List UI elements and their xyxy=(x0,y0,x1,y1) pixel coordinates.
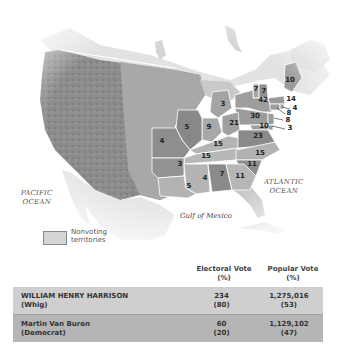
state-vote-label: 30 xyxy=(250,112,260,120)
legend-label-line2: territories xyxy=(71,236,107,244)
electoral-vote: 234 xyxy=(196,292,247,301)
pacific-ocean-label: PACIFIC OCEAN xyxy=(21,189,53,207)
state-vote-label: 4 xyxy=(203,174,208,182)
state-vote-label: 11 xyxy=(247,160,257,168)
electoral-cell: 60 (20) xyxy=(196,320,247,338)
popular-header-line1: Popular Vote xyxy=(263,265,323,274)
map-legend: Nonvoting territories xyxy=(43,228,107,245)
atlantic-label-line2: OCEAN xyxy=(264,187,304,196)
nonvoting-swatch xyxy=(43,231,67,245)
state-vote-label: 8 xyxy=(286,116,291,124)
electoral-header-line1: Electoral Vote xyxy=(194,265,254,274)
state-vote-label: 5 xyxy=(187,182,192,190)
pacific-label-line1: PACIFIC xyxy=(21,189,53,198)
state-vote-label: 11 xyxy=(235,172,245,180)
state-vote-label: 5 xyxy=(185,123,190,131)
popular-cell: 1,275,016 (53) xyxy=(255,292,323,310)
popular-vote: 1,275,016 xyxy=(255,292,323,301)
candidate-party: (Democrat) xyxy=(21,329,196,338)
results-table: WILLIAM HENRY HARRISON (Whig) 234 (80) 1… xyxy=(13,287,323,342)
gulf-of-mexico-label: Gulf of Mexico xyxy=(180,212,232,220)
atlantic-label-line1: ATLANTIC xyxy=(264,178,304,187)
candidate-cell: WILLIAM HENRY HARRISON (Whig) xyxy=(13,292,196,310)
atlantic-ocean-label: ATLANTIC OCEAN xyxy=(264,178,304,196)
state-vote-label: 15 xyxy=(213,140,223,148)
state-vote-label: 4 xyxy=(293,104,298,112)
state-vote-label: 15 xyxy=(201,152,211,160)
state-vote-label: 7 xyxy=(262,87,267,95)
state-vote-label: 3 xyxy=(178,160,183,168)
state-vote-label: 42 xyxy=(258,96,268,104)
table-row-van-buren: Martin Van Buren (Democrat) 60 (20) 1,12… xyxy=(13,314,323,342)
electoral-vote-header: Electoral Vote (%) xyxy=(194,265,254,283)
state-vote-label: 4 xyxy=(160,137,165,145)
electoral-pct: (80) xyxy=(196,301,247,310)
popular-pct: (47) xyxy=(255,329,323,338)
popular-cell: 1,129,102 (47) xyxy=(255,320,323,338)
state-vote-label: 21 xyxy=(229,119,239,127)
pacific-label-line2: OCEAN xyxy=(21,198,53,207)
state-vote-label: 3 xyxy=(288,124,293,132)
candidate-party: (Whig) xyxy=(21,301,196,310)
popular-vote-header: Popular Vote (%) xyxy=(263,265,323,283)
popular-vote: 1,129,102 xyxy=(255,320,323,329)
electoral-vote: 60 xyxy=(196,320,247,329)
state-vote-label: 15 xyxy=(255,149,265,157)
candidate-cell: Martin Van Buren (Democrat) xyxy=(13,320,196,338)
candidate-name: Martin Van Buren xyxy=(21,320,196,329)
state-vote-label: 3 xyxy=(221,100,226,108)
electoral-cell: 234 (80) xyxy=(196,292,247,310)
election-map: 10774214488310303219541523151531147115 P… xyxy=(0,0,351,240)
electoral-header-line2: (%) xyxy=(194,274,254,283)
legend-label: Nonvoting territories xyxy=(71,228,107,244)
state-vote-label: 9 xyxy=(207,123,212,131)
state-vote-label: 10 xyxy=(259,122,269,130)
popular-pct: (53) xyxy=(255,301,323,310)
popular-header-line2: (%) xyxy=(263,274,323,283)
state-vote-label: 7 xyxy=(254,85,259,93)
state-vote-label: 23 xyxy=(253,132,263,140)
electoral-pct: (20) xyxy=(196,329,247,338)
state-vote-label: 7 xyxy=(220,170,225,178)
legend-label-line1: Nonvoting xyxy=(71,228,107,236)
table-row-harrison: WILLIAM HENRY HARRISON (Whig) 234 (80) 1… xyxy=(13,287,323,314)
state-vote-label: 14 xyxy=(286,95,296,103)
map-graphic: 10774214488310303219541523151531147115 xyxy=(0,0,351,240)
candidate-name: WILLIAM HENRY HARRISON xyxy=(21,292,196,301)
state-vote-label: 10 xyxy=(285,76,295,84)
